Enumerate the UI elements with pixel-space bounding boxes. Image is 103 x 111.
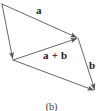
vector-diagram: a b a + b (b) [0, 0, 103, 111]
vector-label-a-plus-b: a + b [43, 50, 67, 61]
vector-label-b: b [89, 60, 95, 71]
vector-edge-a-bottom [13, 60, 94, 90]
vector-edge-b-left [2, 4, 13, 58]
vector-label-a: a [36, 5, 42, 16]
figure-caption: (b) [0, 101, 103, 111]
